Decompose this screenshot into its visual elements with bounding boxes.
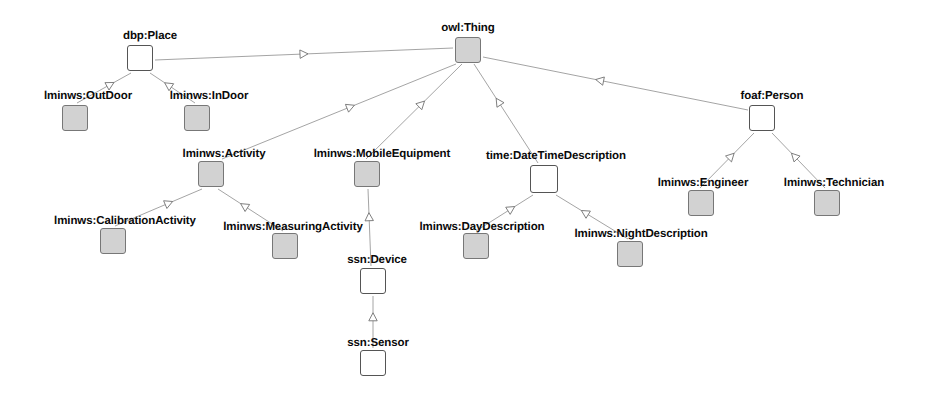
class-box-ssn-sensor[interactable] — [360, 350, 386, 376]
generalization-arrowhead-icon — [345, 104, 354, 112]
class-label-foaf-person: foaf:Person — [741, 90, 804, 102]
class-box-lminws-daydesc[interactable] — [463, 233, 489, 259]
class-box-lminws-technician[interactable] — [814, 190, 840, 216]
edge-lminws_mobileequip-to-owl_thing — [366, 64, 462, 159]
class-box-lminws-engineer[interactable] — [688, 190, 714, 216]
class-label-lminws-outdoor: lminws:OutDoor — [44, 90, 132, 102]
edge-time_datetimedesc-to-owl_thing — [474, 64, 538, 163]
generalization-arrowhead-icon — [365, 213, 373, 221]
edge-lminws_activity-to-owl_thing — [222, 64, 456, 159]
class-label-ssn-device: ssn:Device — [347, 254, 407, 266]
class-label-time-datetimedesc: time:DateTimeDescription — [486, 150, 626, 162]
class-label-dbp-place: dbp:Place — [123, 30, 177, 42]
generalization-arrowhead-icon — [369, 313, 377, 321]
generalization-arrowhead-icon — [581, 211, 590, 219]
generalization-arrowhead-icon — [164, 201, 173, 209]
generalization-arrowhead-icon — [241, 204, 250, 212]
class-box-lminws-calibration[interactable] — [100, 228, 126, 254]
edge-line — [483, 57, 748, 110]
edge-line — [474, 64, 538, 163]
class-box-lminws-mobileequip[interactable] — [354, 161, 380, 187]
class-label-lminws-daydesc: lminws:DayDescription — [419, 221, 544, 233]
class-box-dbp-place[interactable] — [127, 45, 153, 71]
class-box-time-datetimedesc[interactable] — [530, 165, 558, 193]
class-label-lminws-technician: lminws:Technician — [784, 177, 884, 189]
generalization-arrowhead-icon — [506, 207, 515, 215]
class-box-ssn-device[interactable] — [360, 268, 386, 294]
class-box-owl-thing[interactable] — [455, 37, 481, 63]
class-box-lminws-nightdesc[interactable] — [617, 241, 643, 267]
class-label-lminws-engineer: lminws:Engineer — [658, 177, 749, 189]
class-box-lminws-activity[interactable] — [198, 161, 224, 187]
class-label-lminws-calibration: lminws:CalibrationActivity — [54, 215, 196, 227]
class-box-lminws-measuring[interactable] — [272, 233, 298, 259]
generalization-arrowhead-icon — [596, 77, 605, 85]
class-label-lminws-mobileequip: lminws:MobileEquipment — [314, 148, 450, 160]
class-label-lminws-measuring: lminws:MeasuringActivity — [223, 221, 362, 233]
class-box-lminws-indoor[interactable] — [184, 105, 210, 131]
edge-dbp_place-to-owl_thing — [155, 48, 453, 60]
class-label-owl-thing: owl:Thing — [441, 22, 494, 34]
class-box-lminws-outdoor[interactable] — [62, 105, 88, 131]
class-box-foaf-person[interactable] — [749, 105, 775, 131]
edge-line — [366, 64, 462, 159]
class-label-ssn-sensor: ssn:Sensor — [347, 337, 409, 349]
generalization-arrowhead-icon — [496, 98, 504, 107]
class-label-lminws-nightdesc: lminws:NightDescription — [574, 228, 707, 240]
ontology-diagram: owl:Thingdbp:Placelminws:OutDoorlminws:I… — [0, 0, 932, 394]
class-label-lminws-activity: lminws:Activity — [183, 148, 266, 160]
class-label-lminws-indoor: lminws:InDoor — [170, 90, 249, 102]
edge-foaf_person-to-owl_thing — [483, 57, 748, 110]
generalization-arrowhead-icon — [300, 50, 308, 58]
edge-line — [222, 64, 456, 159]
